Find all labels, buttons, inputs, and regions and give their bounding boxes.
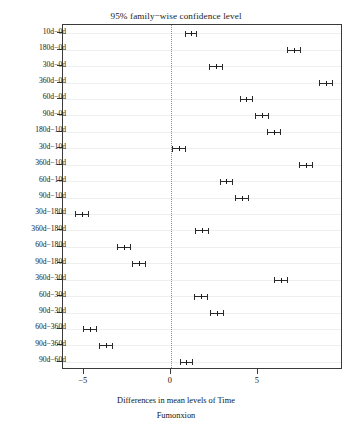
y-tick-label: 10d−0d bbox=[43, 28, 66, 36]
interval-cap-upper bbox=[223, 310, 224, 316]
interval-cap-lower bbox=[240, 96, 241, 102]
interval-estimate-marker bbox=[246, 97, 247, 102]
y-tick-label: 60d−10d bbox=[39, 176, 66, 184]
interval-cap-lower bbox=[220, 179, 221, 185]
interval-estimate-marker bbox=[274, 130, 275, 135]
y-tick-label: 360d−0d bbox=[39, 77, 66, 85]
y-tick-label: 180d−0d bbox=[39, 44, 66, 52]
y-tick-label: 360d−30d bbox=[35, 274, 66, 282]
interval-estimate-marker bbox=[294, 48, 295, 53]
interval-cap-lower bbox=[267, 129, 268, 135]
interval-estimate-marker bbox=[82, 212, 83, 217]
y-tick-label: 60d−30d bbox=[39, 291, 66, 299]
gridline bbox=[63, 66, 341, 67]
interval-cap-upper bbox=[192, 359, 193, 365]
interval-cap-lower bbox=[274, 277, 275, 283]
interval-cap-lower bbox=[132, 261, 133, 267]
interval-estimate-marker bbox=[124, 245, 125, 250]
interval-cap-upper bbox=[88, 211, 89, 217]
interval-estimate-marker bbox=[202, 228, 203, 233]
interval-estimate-marker bbox=[242, 196, 243, 201]
confidence-interval-plot: 95% family−wise confidence level 10d−0d1… bbox=[0, 0, 352, 428]
gridline bbox=[63, 33, 341, 34]
gridline bbox=[63, 115, 341, 116]
interval-cap-lower bbox=[83, 326, 84, 332]
y-tick-label: 60d−180d bbox=[35, 241, 66, 249]
interval-cap-lower bbox=[185, 31, 186, 37]
y-tick-label: 60d−0d bbox=[43, 93, 66, 101]
interval-cap-lower bbox=[117, 244, 118, 250]
x-tick-mark bbox=[83, 369, 84, 374]
gridline bbox=[63, 99, 341, 100]
interval-cap-upper bbox=[280, 129, 281, 135]
interval-estimate-marker bbox=[281, 278, 282, 283]
y-tick-label: 90d−10d bbox=[39, 192, 66, 200]
y-tick-label: 30d−0d bbox=[43, 61, 66, 69]
x-tick-mark bbox=[170, 369, 171, 374]
gridline bbox=[63, 132, 341, 133]
interval-estimate-marker bbox=[216, 64, 217, 69]
x-axis-label: Differences in mean levels of Time bbox=[0, 396, 352, 405]
y-tick-label: 180d−10d bbox=[35, 126, 66, 134]
interval-cap-upper bbox=[332, 80, 333, 86]
plot-panel bbox=[62, 24, 342, 369]
interval-cap-upper bbox=[222, 64, 223, 70]
interval-estimate-marker bbox=[186, 360, 187, 365]
y-tick-label: 60d−360d bbox=[35, 323, 66, 331]
interval-cap-lower bbox=[99, 343, 100, 349]
gridline bbox=[63, 247, 341, 248]
y-tick-label: 360d−180d bbox=[31, 225, 66, 233]
gridline bbox=[63, 198, 341, 199]
x-tick-mark bbox=[257, 369, 258, 374]
interval-estimate-marker bbox=[326, 81, 327, 86]
gridline bbox=[63, 214, 341, 215]
interval-cap-lower bbox=[210, 310, 211, 316]
y-tick-label: 90d−30d bbox=[39, 307, 66, 315]
gridline bbox=[63, 280, 341, 281]
gridline bbox=[63, 263, 341, 264]
interval-estimate-marker bbox=[139, 261, 140, 266]
interval-cap-lower bbox=[319, 80, 320, 86]
interval-cap-lower bbox=[180, 359, 181, 365]
interval-cap-upper bbox=[312, 162, 313, 168]
interval-cap-upper bbox=[208, 228, 209, 234]
interval-cap-upper bbox=[252, 96, 253, 102]
plot-area bbox=[63, 25, 341, 368]
interval-estimate-marker bbox=[106, 343, 107, 348]
gridline bbox=[63, 83, 341, 84]
y-tick-label: 90d−180d bbox=[35, 258, 66, 266]
plot-caption: Fumonxion bbox=[0, 411, 352, 420]
interval-cap-upper bbox=[232, 179, 233, 185]
y-tick-label: 90d−360d bbox=[35, 340, 66, 348]
interval-cap-lower bbox=[75, 211, 76, 217]
gridline bbox=[63, 181, 341, 182]
interval-cap-upper bbox=[207, 294, 208, 300]
interval-cap-lower bbox=[209, 64, 210, 70]
y-tick-label: 90d−60d bbox=[39, 356, 66, 364]
interval-cap-upper bbox=[287, 277, 288, 283]
gridline bbox=[63, 313, 341, 314]
interval-cap-lower bbox=[255, 113, 256, 119]
y-tick-label: 360d−10d bbox=[35, 159, 66, 167]
interval-cap-upper bbox=[300, 47, 301, 53]
gridline bbox=[63, 362, 341, 363]
interval-cap-lower bbox=[172, 146, 173, 152]
y-tick-label: 30d−180d bbox=[35, 208, 66, 216]
x-tick-label: 5 bbox=[242, 376, 272, 385]
x-tick-label: 0 bbox=[155, 376, 185, 385]
interval-estimate-marker bbox=[191, 31, 192, 36]
interval-cap-lower bbox=[195, 228, 196, 234]
interval-estimate-marker bbox=[217, 311, 218, 316]
interval-cap-upper bbox=[185, 146, 186, 152]
y-tick-label: 90d−0d bbox=[43, 110, 66, 118]
interval-estimate-marker bbox=[306, 163, 307, 168]
x-tick-label: −5 bbox=[68, 376, 98, 385]
zero-reference-line bbox=[171, 25, 172, 368]
gridline bbox=[63, 148, 341, 149]
interval-cap-upper bbox=[248, 195, 249, 201]
interval-cap-lower bbox=[194, 294, 195, 300]
interval-estimate-marker bbox=[226, 179, 227, 184]
y-tick-label: 30d−10d bbox=[39, 143, 66, 151]
plot-title: 95% family−wise confidence level bbox=[0, 11, 352, 21]
interval-cap-upper bbox=[112, 343, 113, 349]
